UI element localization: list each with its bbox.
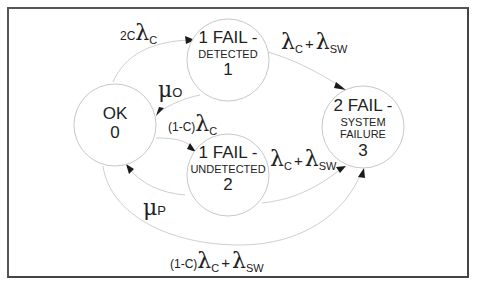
lambda-symbol: λ <box>135 20 149 45</box>
transition-label-2-to-0: μP <box>143 197 166 219</box>
transition-label-1-to-3: λC+λSW <box>281 31 347 55</box>
state-2-number: 2 <box>183 176 273 194</box>
state-1-subtitle: DETECTED <box>183 49 273 61</box>
lambda-symbol: λ <box>197 248 211 273</box>
edge-1-to-3 <box>268 52 343 88</box>
transition-label-1-to-0: μO <box>158 79 182 101</box>
transition-label-2-to-3: λC+λSW <box>270 148 336 172</box>
mu-symbol: μ <box>158 77 172 102</box>
state-0-number: 0 <box>75 124 155 142</box>
arrowhead-1-to-3 <box>334 82 346 90</box>
state-1-label: 1 FAIL - DETECTED 1 <box>183 29 273 79</box>
state-3-subtitle-line2: FAILURE <box>318 129 408 141</box>
state-1-number: 1 <box>183 61 273 79</box>
arrowhead-1-to-0 <box>156 107 164 116</box>
state-1-title: 1 FAIL - <box>183 29 273 47</box>
lambda-symbol: λ <box>316 29 330 54</box>
arrowhead-0-to-3 <box>358 168 365 178</box>
mu-symbol: μ <box>143 195 157 220</box>
state-0-title: OK <box>75 105 155 123</box>
edge-0-to-1 <box>113 40 188 82</box>
state-3-subtitle-line1: SYSTEM <box>318 117 408 129</box>
lambda-symbol: λ <box>305 146 319 171</box>
state-2-title: 1 FAIL - <box>183 144 273 162</box>
edge-2-to-3 <box>262 168 342 203</box>
lambda-symbol: λ <box>195 111 209 136</box>
transition-label-0-to-2: (1-C)λC <box>168 113 217 137</box>
lambda-symbol: λ <box>270 146 284 171</box>
transition-label-0-to-1: 2CλC <box>120 22 157 46</box>
state-3-title: 2 FAIL - <box>318 97 408 115</box>
lambda-symbol: λ <box>281 29 295 54</box>
lambda-symbol: λ <box>232 248 246 273</box>
state-2-subtitle: UNDETECTED <box>183 164 273 176</box>
state-0-label: OK 0 <box>75 105 155 142</box>
edge-2-to-0 <box>128 167 185 195</box>
transition-label-0-to-3: (1-C)λC+λSW <box>170 250 264 274</box>
state-2-label: 1 FAIL - UNDETECTED 2 <box>183 144 273 194</box>
